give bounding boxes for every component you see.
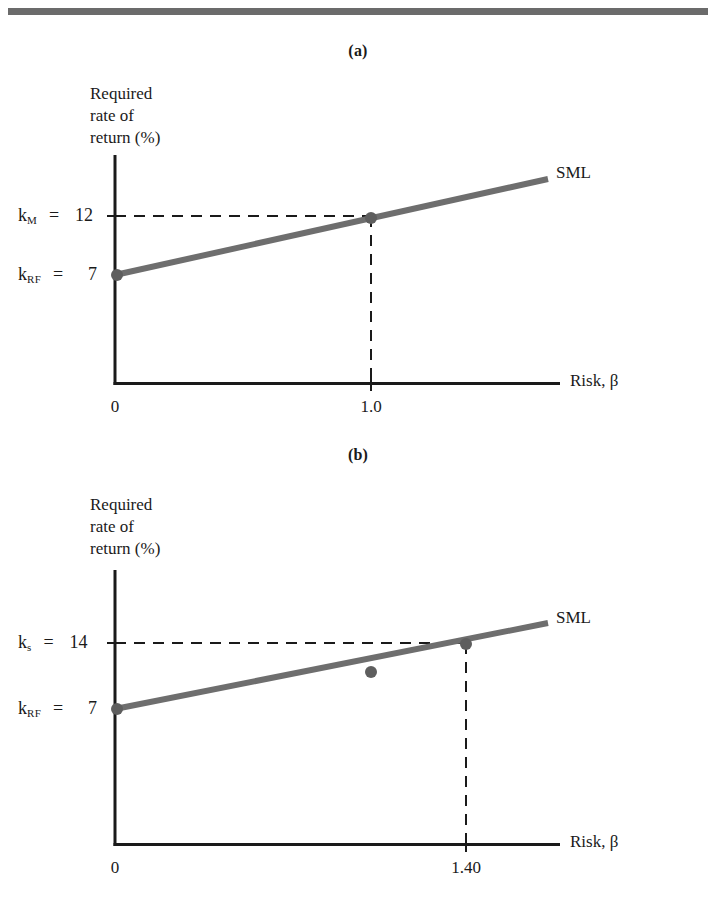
panel-b-y-label-krf: kRF=7 — [18, 698, 97, 719]
panel-a-x-tick-label-0: 0 — [95, 397, 135, 417]
panel-b-point-km — [365, 666, 377, 678]
panel-b-x-tick-label-1: 1.40 — [436, 858, 496, 878]
panel-a-y-label-km-equals: = — [37, 205, 71, 226]
panel-a-y-label-krf-equals: = — [41, 264, 75, 285]
panel-a-y-label-km: kM=12 — [18, 205, 93, 226]
panel-a-y-label-km-symbol: k — [18, 205, 27, 225]
page-top-rule — [8, 8, 708, 15]
panel-b-series-label: SML — [556, 608, 591, 628]
panel-a-point-krf — [111, 269, 123, 281]
panel-b-y-label-krf-equals: = — [41, 698, 75, 719]
panel-b-sml-line — [115, 623, 548, 709]
panel-a-y-axis-title: Required rate of return (%) — [90, 83, 160, 149]
panel-a-y-label-krf: kRF=7 — [18, 264, 97, 285]
panel-a-y-label-km-subscript: M — [27, 214, 37, 226]
panel-b-y-label-ks-value: 14 — [66, 632, 88, 653]
panel-b-y-label-ks: ks=14 — [18, 632, 88, 653]
panel-b-point-ks — [460, 638, 472, 650]
panel-a-sml-line — [115, 179, 548, 275]
panel-b-y-label-krf-subscript: RF — [27, 707, 41, 719]
panel-a-x-axis-title: Risk, β — [570, 371, 618, 391]
panel-a-x-tick-label-1: 1.0 — [346, 397, 396, 417]
chart-panel-b: Required rate of return (%) ks=14 kRF=7 … — [0, 480, 716, 900]
panel-a-y-label-km-value: 12 — [71, 205, 93, 226]
panel-b-x-axis-title: Risk, β — [570, 832, 618, 852]
panel-b-y-label-krf-value: 7 — [75, 698, 97, 719]
figure-page: (a) Required rate of return (%) kM=12 — [0, 0, 716, 913]
panel-a-y-label-krf-symbol: k — [18, 264, 27, 284]
panel-b-point-krf — [111, 703, 123, 715]
panel-b-x-tick-label-0: 0 — [95, 858, 135, 878]
panel-b-y-label-ks-subscript: s — [27, 641, 32, 653]
panel-b-y-label-ks-equals: = — [32, 632, 66, 653]
panel-b-y-label-krf-symbol: k — [18, 698, 27, 718]
panel-a-series-label: SML — [556, 163, 591, 183]
panel-a-y-label-krf-value: 7 — [75, 264, 97, 285]
panel-b-y-label-ks-symbol: k — [18, 632, 27, 652]
chart-panel-a: Required rate of return (%) kM=12 kRF=7 … — [0, 75, 716, 425]
panel-a-caption: (a) — [0, 42, 716, 60]
panel-b-y-axis-title: Required rate of return (%) — [90, 494, 160, 560]
panel-a-point-km — [365, 212, 377, 224]
panel-b-caption: (b) — [0, 446, 716, 464]
panel-a-y-label-krf-subscript: RF — [27, 273, 41, 285]
